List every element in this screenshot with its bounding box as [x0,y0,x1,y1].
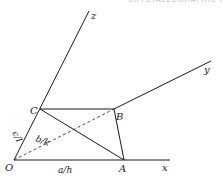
y-axis-dashed [14,109,114,160]
label-c: C [30,105,38,116]
label-a-over-h: a/h [58,165,72,175]
label-y-axis: y [203,64,210,75]
label-z-axis: z [90,10,97,21]
label-b-over-k: b/k [34,133,51,147]
crystal-plane-diagram: O A B C x y z a/h b/k c/l [0,0,223,182]
label-b: B [115,111,123,122]
label-c-over-l: c/l [10,129,24,143]
label-o: O [5,162,13,173]
label-a: A [118,163,126,174]
edge-ca [40,109,124,160]
label-x-axis: x [162,162,168,173]
y-axis-solid [114,61,211,109]
z-axis [14,11,89,160]
